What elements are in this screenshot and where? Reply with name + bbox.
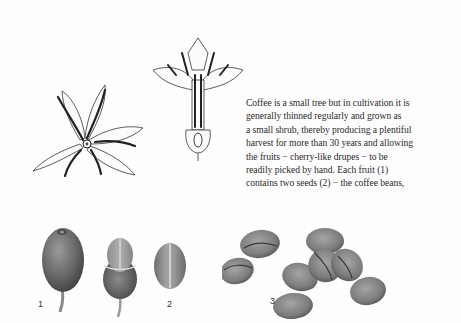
text-line: a small shrub, thereby producing a plent… (246, 123, 461, 136)
book-page: Coffee is a small tree but in cultivatio… (0, 0, 461, 323)
description-paragraph: Coffee is a small tree but in cultivatio… (246, 96, 461, 190)
text-line: generally thinned regularly and grown as (246, 109, 461, 122)
text-line: contains two seeds (2) − the coffee bean… (246, 176, 461, 189)
figure-label-2: 2 (167, 299, 172, 309)
text-line: the fruits − cherry-like drupes − to be (246, 150, 461, 163)
opened-fruit-illustration (100, 237, 140, 317)
figure-label-1: 1 (38, 299, 43, 309)
flower-cross-section-illustration (148, 35, 248, 165)
roasted-beans-illustration (222, 226, 390, 321)
text-line: readily picked by hand. Each fruit (1) (246, 163, 461, 176)
coffee-fruit-illustration (38, 222, 90, 312)
coffee-flower-illustration (25, 68, 150, 178)
figure-label-3: 3 (270, 296, 275, 306)
text-line: Coffee is a small tree but in cultivatio… (246, 96, 461, 109)
coffee-seeds-illustration (152, 241, 188, 291)
text-line: harvest for more than 30 years and allow… (246, 136, 461, 149)
